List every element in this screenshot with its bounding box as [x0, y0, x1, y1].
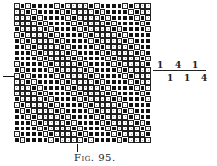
- formula-divider: [153, 70, 206, 71]
- formula-down-1: 1: [167, 74, 173, 83]
- formula-up-3: 1: [192, 61, 198, 70]
- weave-design-grid: [14, 3, 151, 143]
- formula-up-2: 4: [175, 61, 181, 70]
- starting-pick-marker: [3, 76, 14, 77]
- formula-down-2: 1: [184, 74, 190, 83]
- figure-caption: Fig. 95.: [74, 152, 116, 163]
- sunk-cell: [145, 137, 151, 143]
- formula-up-1: 1: [157, 61, 163, 70]
- starting-end-marker: [77, 144, 78, 152]
- formula-down-3: 4: [201, 74, 207, 83]
